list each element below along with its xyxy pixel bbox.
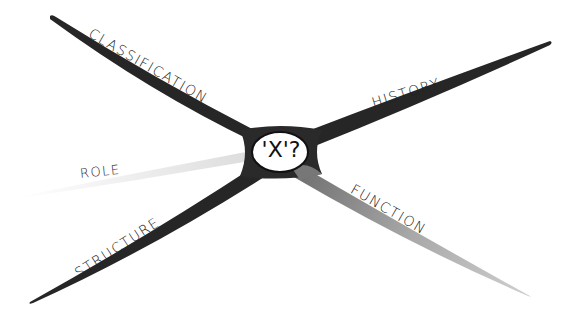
center-label: 'X'? — [253, 137, 309, 162]
concept-diagram: 'X'? CLASSIFICATION HISTORY ROLE STRUCTU… — [0, 0, 576, 325]
